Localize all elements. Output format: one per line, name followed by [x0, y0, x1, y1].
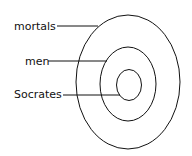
socrates-label: Socrates — [14, 88, 62, 101]
men-label: men — [25, 55, 49, 68]
nested-sets-diagram: mortals men Socrates — [0, 0, 192, 156]
mortals-label: mortals — [14, 20, 56, 33]
men-set — [100, 47, 156, 121]
socrates-set — [117, 70, 142, 101]
mortals-set — [76, 15, 180, 149]
